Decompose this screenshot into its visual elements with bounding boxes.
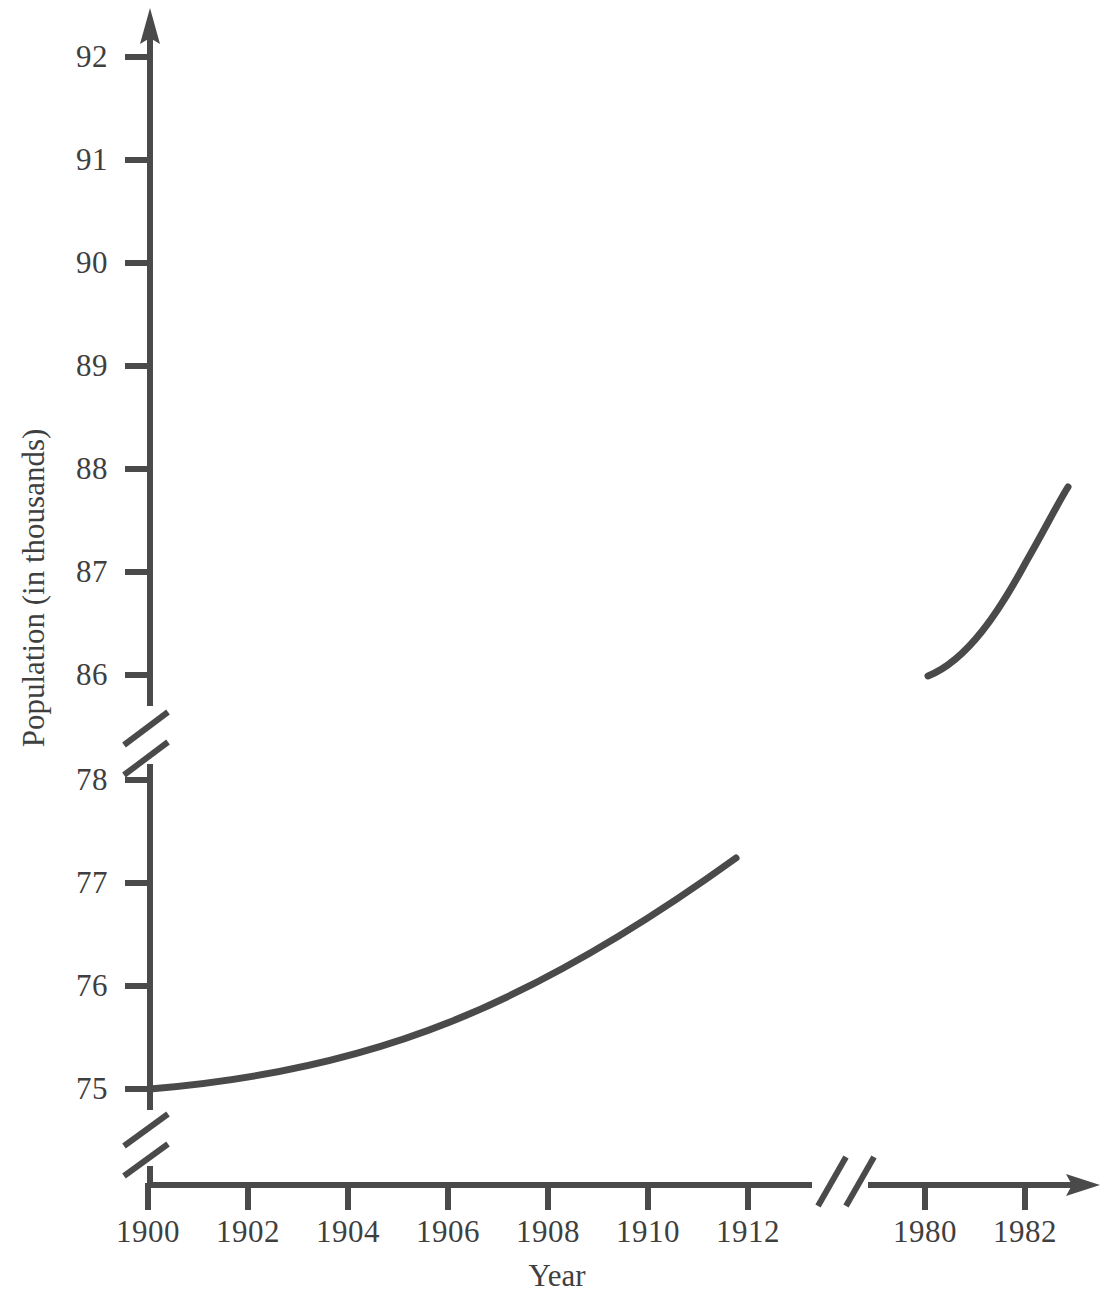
y-tick-label-77: 77 [38, 865, 108, 901]
x-tick-label-1900: 1900 [116, 1214, 180, 1250]
x-tick-label-1912: 1912 [716, 1214, 780, 1250]
x-tick-label-1904: 1904 [316, 1214, 380, 1250]
y-tick-label-76: 76 [38, 968, 108, 1004]
y-tick-label-90: 90 [38, 245, 108, 281]
y-tick-label-75: 75 [38, 1071, 108, 1107]
data-curve-1900-1912 [150, 858, 736, 1089]
y-tick-label-92: 92 [38, 39, 108, 75]
y-tick-label-91: 91 [38, 142, 108, 178]
x-tick-label-1908: 1908 [516, 1214, 580, 1250]
x-axis-title: Year [0, 1258, 1114, 1294]
y-axis-title: Population (in thousands) [16, 373, 52, 803]
x-axis-break [812, 1157, 874, 1206]
chart-figure: 92 91 90 89 88 87 86 78 77 76 75 1900 19… [0, 0, 1114, 1313]
y-axis-break-upper [124, 706, 168, 775]
x-tick-label-1910: 1910 [616, 1214, 680, 1250]
y-axis-break-lower [124, 1110, 168, 1176]
x-tick-label-1980: 1980 [893, 1214, 957, 1250]
x-tick-label-1902: 1902 [216, 1214, 280, 1250]
data-curve-1980-1983 [928, 487, 1068, 676]
x-tick-label-1906: 1906 [416, 1214, 480, 1250]
x-tick-label-1982: 1982 [993, 1214, 1057, 1250]
chart-canvas [0, 0, 1114, 1313]
